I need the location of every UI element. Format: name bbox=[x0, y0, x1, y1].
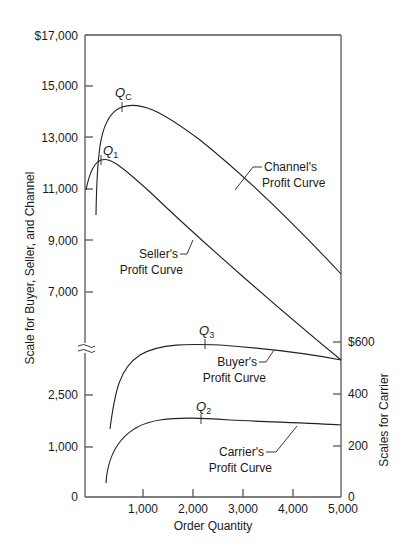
axis-break-icon bbox=[76, 343, 95, 353]
y-tick-15000: 15,000 bbox=[41, 79, 78, 93]
x-axis-ticks bbox=[143, 489, 293, 497]
x-tick-1000: 1,000 bbox=[128, 502, 158, 516]
y-axis-left-title: Scale for Buyer, Seller, and Channel bbox=[23, 172, 37, 365]
left-axis-ticks bbox=[85, 86, 93, 447]
y-axis-right-title: Scales for Carrier bbox=[377, 373, 391, 466]
right-axis-ticks bbox=[333, 342, 341, 446]
x-axis-title: Order Quantity bbox=[174, 519, 253, 533]
y-tick-7000: 7,000 bbox=[48, 285, 78, 299]
left-axis-labels: $17,000 15,000 13,000 11,000 9,000 7,000… bbox=[35, 29, 79, 504]
y-tick-9000: 9,000 bbox=[48, 234, 78, 248]
seller-leader-line bbox=[180, 240, 193, 254]
q2-label: Q2 bbox=[196, 399, 211, 416]
buyer-label-line1: Buyer's bbox=[217, 355, 257, 369]
q3-label: Q3 bbox=[199, 323, 214, 340]
y2-tick-600: $600 bbox=[348, 335, 375, 349]
y-tick-1000: 1,000 bbox=[48, 440, 78, 454]
y2-tick-200: 200 bbox=[348, 439, 368, 453]
seller-label-line2: Profit Curve bbox=[120, 263, 184, 277]
x-axis-labels: 1,000 2,000 3,000 4,000 5,000 bbox=[128, 502, 358, 516]
qc-label: QC bbox=[115, 85, 132, 102]
right-axis-labels: $600 400 200 0 bbox=[348, 335, 375, 504]
carrier-leader-line bbox=[266, 426, 297, 452]
y-tick-17000: $17,000 bbox=[35, 29, 79, 43]
x-tick-5000: 5,000 bbox=[328, 502, 358, 516]
y-tick-13000: 13,000 bbox=[41, 131, 78, 145]
x-tick-4000: 4,000 bbox=[278, 502, 308, 516]
y-tick-11000: 11,000 bbox=[42, 182, 78, 196]
buyer-leader-line bbox=[259, 350, 274, 362]
q1-label: Q1 bbox=[103, 143, 118, 160]
carrier-label-line1: Carrier's bbox=[219, 445, 264, 459]
y2-tick-400: 400 bbox=[348, 387, 368, 401]
x-tick-2000: 2,000 bbox=[178, 502, 208, 516]
channel-leader-line bbox=[235, 167, 262, 190]
seller-label-line1: Seller's bbox=[139, 247, 178, 261]
profit-curves-chart: $17,000 15,000 13,000 11,000 9,000 7,000… bbox=[0, 0, 407, 557]
buyer-label-line2: Profit Curve bbox=[203, 371, 267, 385]
channel-label-line2: Profit Curve bbox=[262, 176, 326, 190]
y-tick-2500: 2,500 bbox=[48, 388, 78, 402]
channel-label-line1: Channel's bbox=[264, 160, 317, 174]
x-tick-3000: 3,000 bbox=[228, 502, 258, 516]
carrier-label-line2: Profit Curve bbox=[209, 461, 273, 475]
y-tick-0: 0 bbox=[71, 490, 78, 504]
